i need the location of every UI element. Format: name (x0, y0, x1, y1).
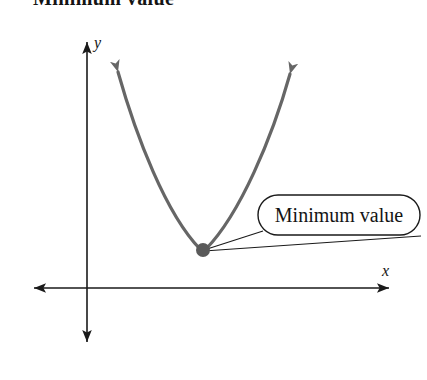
leader-line-lower (204, 236, 421, 251)
y-axis (82, 42, 92, 342)
x-axis-label: x (381, 262, 389, 279)
minimum-point-marker (196, 243, 210, 257)
y-axis-label: y (92, 34, 102, 52)
parabola-figure: x y Minimum value (0, 0, 427, 380)
callout-label: Minimum value (275, 204, 403, 226)
figure-container: Minimum value x y (0, 0, 427, 380)
parabola-left-branch (118, 72, 200, 249)
callout-minimum-value: Minimum value (258, 195, 420, 235)
